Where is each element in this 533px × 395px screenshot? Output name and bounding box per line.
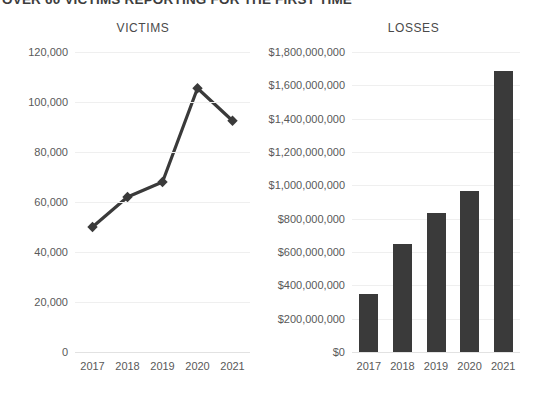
victims-x-tick-label: 2020 (185, 360, 209, 372)
victims-data-point-marker (157, 177, 167, 187)
losses-bar (359, 294, 378, 352)
victims-plot-area: 020,00040,00060,00080,000100,000120,0002… (75, 52, 250, 352)
victims-gridline (75, 102, 250, 103)
losses-x-tick-label: 2019 (424, 360, 448, 372)
losses-y-tick-label: $1,800,000,000 (269, 46, 345, 58)
losses-y-tick-label: $1,200,000,000 (269, 146, 345, 158)
losses-bar (494, 71, 513, 352)
victims-y-tick-label: 20,000 (34, 296, 68, 308)
losses-chart-panel: LOSSES $0$200,000,000$400,000,000$600,00… (268, 12, 533, 387)
victims-gridline (75, 152, 250, 153)
losses-x-tick-label: 2021 (491, 360, 515, 372)
losses-x-tick-label: 2020 (457, 360, 481, 372)
victims-x-tick-label: 2017 (80, 360, 104, 372)
victims-x-tick-label: 2018 (115, 360, 139, 372)
victims-y-tick-label: 100,000 (28, 96, 68, 108)
victims-line-path (93, 88, 233, 227)
victims-gridline (75, 52, 250, 53)
header-strip: OVER 60 VICTIMS REPORTING FOR THE FIRST … (0, 0, 533, 9)
losses-bar (460, 191, 479, 352)
victims-chart-title: VICTIMS (0, 21, 268, 35)
page-title: OVER 60 VICTIMS REPORTING FOR THE FIRST … (2, 0, 352, 7)
losses-bar (393, 244, 412, 352)
losses-y-tick-label: $200,000,000 (278, 313, 345, 325)
victims-y-tick-label: 40,000 (34, 246, 68, 258)
losses-x-tick-label: 2018 (390, 360, 414, 372)
victims-y-tick-label: 80,000 (34, 146, 68, 158)
victims-x-tick-label: 2019 (150, 360, 174, 372)
losses-y-tick-label: $0 (333, 346, 345, 358)
losses-plot-area: $0$200,000,000$400,000,000$600,000,000$8… (352, 52, 520, 352)
victims-y-tick-label: 120,000 (28, 46, 68, 58)
victims-gridline (75, 302, 250, 303)
losses-gridline (352, 352, 520, 353)
losses-x-tick-label: 2017 (357, 360, 381, 372)
losses-chart-title: LOSSES (268, 21, 533, 35)
victims-x-tick-label: 2021 (220, 360, 244, 372)
losses-y-tick-label: $1,400,000,000 (269, 113, 345, 125)
losses-y-tick-label: $600,000,000 (278, 246, 345, 258)
losses-gridline (352, 52, 520, 53)
victims-gridline (75, 252, 250, 253)
losses-y-tick-label: $1,600,000,000 (269, 79, 345, 91)
victims-chart-panel: VICTIMS 020,00040,00060,00080,000100,000… (0, 12, 268, 387)
losses-bar (427, 213, 446, 352)
losses-y-tick-label: $1,000,000,000 (269, 179, 345, 191)
victims-y-tick-label: 0 (62, 346, 68, 358)
losses-y-tick-label: $800,000,000 (278, 213, 345, 225)
victims-gridline (75, 202, 250, 203)
victims-gridline (75, 352, 250, 353)
victims-y-tick-label: 60,000 (34, 196, 68, 208)
losses-y-tick-label: $400,000,000 (278, 279, 345, 291)
infographic-page: OVER 60 VICTIMS REPORTING FOR THE FIRST … (0, 0, 533, 395)
